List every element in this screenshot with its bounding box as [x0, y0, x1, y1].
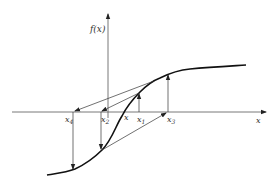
label-root: x [124, 113, 129, 122]
label-x3: x3 [167, 115, 176, 125]
tangent-line [102, 93, 139, 111]
label-x1: x1 [137, 115, 145, 125]
newton-diagram: f(x) x x4 x2 x x1 x3 [0, 0, 275, 190]
y-axis-label: f(x) [89, 24, 106, 34]
function-curve [47, 65, 246, 175]
x-axis-label: x [256, 116, 261, 125]
tangent-line [75, 81, 154, 111]
tangent-line [102, 113, 166, 150]
label-x4: x4 [65, 115, 74, 125]
